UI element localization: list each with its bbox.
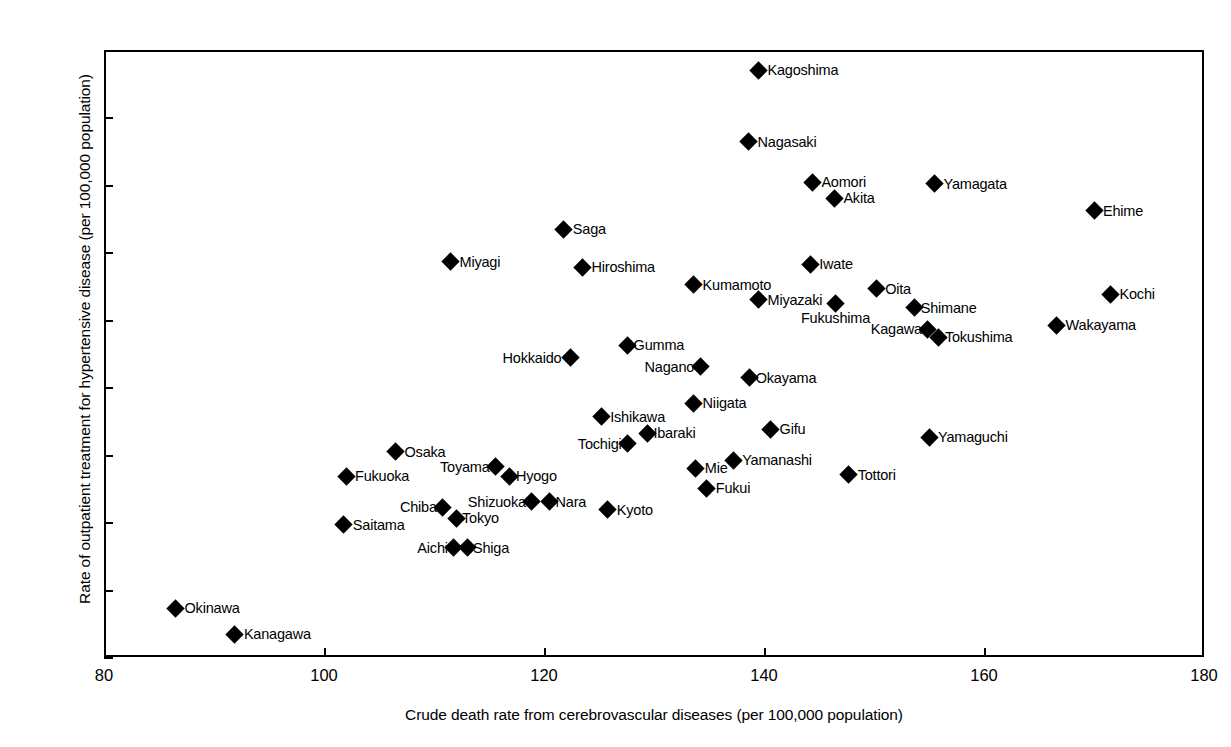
y-tick-mark (104, 455, 113, 457)
data-point-label: Shimane (921, 301, 977, 316)
data-point-label: Okinawa (185, 601, 240, 616)
data-point-label: Aomori (821, 175, 866, 190)
x-tick-mark (544, 648, 546, 657)
x-tick-label: 140 (724, 666, 804, 685)
y-tick-mark (104, 117, 113, 119)
data-point-label: Yamanashi (742, 453, 812, 468)
data-point-label: Shizuoka (468, 495, 526, 510)
data-point-label: Saitama (353, 518, 405, 533)
data-point-label: Fukushima (801, 311, 870, 326)
data-point-label: Gumma (634, 338, 685, 353)
data-point-label: Kagoshima (768, 63, 839, 78)
x-axis-title: Crude death rate from cerebrovascular di… (104, 706, 1204, 724)
x-tick-mark (324, 648, 326, 657)
data-point-label: Ibaraki (653, 426, 695, 441)
data-point-label: Tottori (858, 468, 896, 483)
data-point-label: Kumamoto (703, 278, 772, 293)
y-tick-mark (104, 320, 113, 322)
x-tick-label: 160 (944, 666, 1024, 685)
y-tick-mark (104, 590, 113, 592)
y-axis-title: Rate of outpatient treatment for hyperte… (76, 29, 94, 649)
data-point-label: Aichi (417, 541, 447, 556)
data-point-label: Chiba (400, 500, 437, 515)
data-point-label: Ehime (1103, 204, 1143, 219)
y-tick-mark (104, 50, 113, 52)
x-tick-label: 180 (1164, 666, 1231, 685)
data-point-label: Toyama (440, 460, 490, 475)
data-point-label: Niigata (703, 396, 747, 411)
y-tick-mark (104, 252, 113, 254)
y-tick-mark (104, 185, 113, 187)
data-point-label: Tochigi (578, 437, 622, 452)
data-point-label: Fukui (716, 481, 750, 496)
data-point-label: Osaka (405, 445, 446, 460)
data-point-label: Kochi (1120, 287, 1155, 302)
y-tick-mark (104, 657, 113, 659)
data-point-label: Nara (556, 495, 587, 510)
data-point-label: Saga (573, 222, 606, 237)
data-point-label: Kagawa (871, 322, 922, 337)
data-point-label: Yamagata (944, 177, 1007, 192)
data-point-label: Mie (705, 461, 728, 476)
x-tick-label: 100 (284, 666, 364, 685)
data-point-label: Iwate (819, 257, 853, 272)
y-tick-mark (104, 387, 113, 389)
data-point-label: Kanagawa (244, 627, 311, 642)
scatter-plot-figure: Rate of outpatient treatment for hyperte… (0, 0, 1231, 747)
data-point-label: Shiga (473, 541, 509, 556)
y-tick-mark (104, 522, 113, 524)
x-tick-label: 80 (64, 666, 144, 685)
x-tick-mark (984, 648, 986, 657)
plot-area (104, 50, 1204, 657)
data-point-label: Kyoto (617, 503, 653, 518)
x-tick-mark (764, 648, 766, 657)
data-point-label: Okayama (756, 371, 817, 386)
x-tick-label: 120 (504, 666, 584, 685)
data-point-label: Fukuoka (355, 469, 409, 484)
data-point-label: Akita (843, 191, 874, 206)
data-point-label: Tokyo (462, 511, 499, 526)
data-point-label: Oita (885, 282, 911, 297)
data-point-label: Nagasaki (758, 135, 817, 150)
data-point-label: Hiroshima (592, 260, 655, 275)
data-point-label: Tokushima (945, 330, 1013, 345)
data-point-label: Miyagi (460, 255, 501, 270)
data-point-label: Wakayama (1066, 318, 1136, 333)
data-point-label: Gifu (780, 422, 806, 437)
data-point-label: Nagano (645, 360, 695, 375)
data-point-label: Yamaguchi (938, 430, 1008, 445)
data-point-label: Miyazaki (768, 293, 823, 308)
data-point-label: Hokkaido (503, 351, 562, 366)
data-point-label: Hyogo (516, 469, 557, 484)
data-point-label: Ishikawa (610, 410, 665, 425)
